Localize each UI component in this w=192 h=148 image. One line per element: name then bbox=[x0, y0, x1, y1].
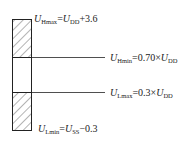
subscript: Hmax bbox=[41, 18, 57, 25]
subscript: DD bbox=[70, 18, 79, 25]
label-h-min: UHmin=0.70×UDD bbox=[110, 52, 177, 66]
high-level-region bbox=[13, 20, 32, 58]
subscript: DD bbox=[168, 57, 177, 64]
tail: −0.3 bbox=[79, 123, 97, 134]
subscript: Lmin bbox=[45, 128, 59, 135]
subscript: Hmin bbox=[117, 57, 132, 64]
label-l-min: ULmin=USS−0.3 bbox=[38, 123, 98, 137]
operator: =0.70× bbox=[132, 52, 161, 63]
symbol: U bbox=[161, 52, 168, 63]
tail: +3.6 bbox=[79, 13, 97, 24]
undefined-region bbox=[13, 58, 32, 93]
operator: =0.3× bbox=[132, 87, 156, 98]
subscript: Lmax bbox=[117, 92, 132, 99]
label-h-max: UHmax=UDD+3.6 bbox=[34, 13, 98, 27]
subscript: DD bbox=[163, 92, 172, 99]
label-l-max: ULmax=0.3×UDD bbox=[110, 87, 173, 101]
symbol: U bbox=[63, 13, 70, 24]
low-level-region bbox=[13, 93, 32, 131]
